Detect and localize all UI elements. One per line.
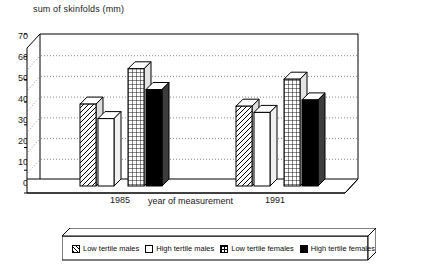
- legend-label-high-tertile-females: High tertile females: [311, 245, 375, 253]
- legend-swatch-empty: [145, 245, 153, 253]
- legend-swatch-crosshatch: [220, 245, 228, 253]
- legend: Low tertile males High tertile males Low…: [62, 228, 376, 262]
- legend-item-low-tertile-females: Low tertile females: [220, 245, 294, 253]
- bar-1985-high-tertile-males: [98, 112, 121, 186]
- chart-figure: sum of skinfolds (mm) 70 60 50 40 30 20 …: [0, 0, 426, 271]
- legend-swatch-solid-black: [300, 245, 308, 253]
- legend-item-low-tertile-males: Low tertile males: [72, 245, 139, 253]
- legend-label-high-tertile-males: High tertile males: [156, 245, 214, 253]
- bar-1991-high-tertile-males: [254, 105, 277, 186]
- legend-label-low-tertile-females: Low tertile females: [231, 245, 294, 253]
- legend-label-low-tertile-males: Low tertile males: [83, 245, 139, 253]
- x-axis-title: year of measurement: [148, 196, 233, 206]
- x-tick-1985: 1985: [90, 195, 150, 205]
- legend-item-high-tertile-females: High tertile females: [300, 245, 375, 253]
- legend-item-high-tertile-males: High tertile males: [145, 245, 214, 253]
- bar-1991-high-tertile-females: [302, 93, 325, 186]
- plot-area: [0, 0, 426, 215]
- legend-box-top: [62, 228, 376, 236]
- x-tick-1991: 1991: [245, 195, 305, 205]
- bar-1985-high-tertile-females: [146, 83, 169, 187]
- legend-swatch-diagonal-hatch: [72, 245, 80, 253]
